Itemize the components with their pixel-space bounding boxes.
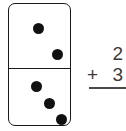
plus-operator-icon: + bbox=[87, 64, 98, 85]
pip-top-2 bbox=[52, 49, 63, 60]
domino-tile bbox=[8, 3, 71, 126]
pip-bottom-2 bbox=[44, 98, 55, 109]
pip-bottom-1 bbox=[31, 81, 42, 92]
pip-top-1 bbox=[33, 23, 44, 34]
pip-bottom-3 bbox=[56, 114, 67, 125]
domino-divider-line bbox=[8, 68, 71, 69]
first-addend: 2 bbox=[112, 43, 123, 64]
domino-addition-worksheet: 2 + 3 bbox=[0, 0, 126, 131]
equation-second-addend-row: + 3 bbox=[84, 64, 126, 85]
second-addend: 3 bbox=[112, 64, 123, 85]
equation-sum-row[interactable] bbox=[84, 89, 126, 110]
addition-equation: 2 + 3 bbox=[84, 43, 126, 110]
equation-first-addend-row: 2 bbox=[84, 43, 126, 64]
